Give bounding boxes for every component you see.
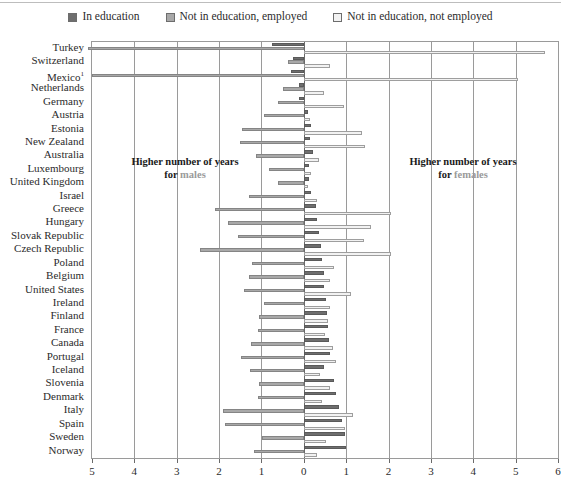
annotation-gender-word: males: [180, 169, 206, 180]
axis-tick-label: 2: [386, 465, 392, 477]
bar-1: [283, 87, 303, 90]
bar-row: [92, 284, 558, 297]
bar-1: [215, 208, 304, 211]
bar-row: [92, 418, 558, 431]
bar-2: [304, 172, 312, 175]
bar-0: [304, 244, 321, 247]
bar-0: [304, 352, 330, 355]
bar-1: [200, 248, 304, 251]
axis-tick: [431, 459, 432, 463]
annotation-line1: Higher number of years: [110, 156, 260, 169]
axis-tick: [304, 459, 305, 463]
bar-2: [304, 105, 344, 108]
category-label: Slovenia: [46, 376, 85, 389]
bar-0: [304, 204, 316, 207]
category-label: Estonia: [51, 122, 84, 135]
bar-2: [304, 91, 324, 94]
category-label: Canada: [51, 336, 84, 349]
bar-rows: [92, 42, 558, 458]
axis-tick-label: 3: [428, 465, 434, 477]
bar-0: [304, 285, 324, 288]
bar-0: [304, 231, 319, 234]
category-label: United Kingdom: [10, 175, 84, 188]
bar-row: [92, 123, 558, 136]
bar-1: [288, 60, 304, 63]
legend-label: In education: [82, 11, 139, 23]
chart-legend: In educationNot in education, employedNo…: [0, 8, 561, 26]
bar-0: [304, 405, 339, 408]
bar-1: [259, 382, 303, 385]
category-label: Austria: [52, 108, 84, 121]
bar-1: [242, 128, 303, 131]
category-axis-labels: TurkeySwitzerlandMexico1NetherlandsGerma…: [0, 41, 88, 459]
bar-2: [304, 386, 330, 389]
bar-2: [304, 252, 391, 255]
axis-tick-label: 0: [301, 465, 307, 477]
bar-1: [252, 262, 304, 265]
bar-row: [92, 42, 558, 55]
bar-0: [304, 124, 312, 127]
category-label: France: [54, 323, 84, 336]
category-label: Finland: [50, 309, 84, 322]
bar-0: [304, 298, 326, 301]
bar-row: [92, 109, 558, 122]
axis-tick-label: 5: [89, 465, 95, 477]
bar-2: [304, 199, 318, 202]
bar-2: [304, 158, 319, 161]
axis-tick-label: 5: [513, 465, 519, 477]
bar-2: [304, 279, 330, 282]
bar-1: [262, 436, 304, 439]
bar-1: [251, 342, 304, 345]
bar-0: [272, 43, 304, 46]
bar-1: [240, 141, 304, 144]
annotation-line1: Higher number of years: [388, 156, 538, 169]
bar-1: [250, 369, 304, 372]
category-label: United States: [25, 283, 84, 296]
bar-0: [304, 218, 318, 221]
bar-2: [304, 64, 330, 67]
axis-tick-label: 4: [471, 465, 477, 477]
category-label: Sweden: [49, 430, 84, 443]
bar-row: [92, 404, 558, 417]
legend-item-1: Not in education, employed: [166, 11, 308, 23]
bar-0: [304, 164, 309, 167]
bar-row: [92, 257, 558, 270]
bar-row: [92, 337, 558, 350]
legend-swatch-light: [333, 13, 342, 22]
category-label: Czech Republic: [14, 242, 84, 255]
axis-tick: [92, 459, 93, 463]
bar-0: [304, 325, 329, 328]
annotation-gender-word: females: [454, 169, 488, 180]
bar-row: [92, 82, 558, 95]
category-label: Spain: [59, 417, 84, 430]
bar-2: [304, 360, 336, 363]
axis-tick: [389, 459, 390, 463]
bar-1: [254, 450, 304, 453]
axis-tick: [177, 459, 178, 463]
bar-0: [304, 150, 313, 153]
bar-1: [238, 235, 304, 238]
bar-2: [304, 333, 325, 336]
legend-item-0: In education: [68, 11, 139, 23]
bar-1: [223, 409, 303, 412]
bar-row: [92, 230, 558, 243]
bar-0: [299, 83, 304, 86]
axis-tick-label: 1: [259, 465, 265, 477]
axis-tick: [346, 459, 347, 463]
bar-2: [304, 212, 391, 215]
bar-2: [304, 131, 362, 134]
bar-row: [92, 190, 558, 203]
bar-0: [293, 57, 304, 60]
bar-0: [304, 419, 342, 422]
axis-tick-label: 2: [216, 465, 222, 477]
category-label: Israel: [60, 189, 84, 202]
bar-row: [92, 364, 558, 377]
bar-1: [92, 74, 304, 77]
bar-0: [304, 379, 335, 382]
axis-tick-label: 6: [555, 465, 561, 477]
category-label: Portugal: [47, 350, 84, 363]
bar-2: [304, 266, 335, 269]
value-axis: Years 543210123456: [91, 459, 559, 481]
bar-row: [92, 136, 558, 149]
bar-0: [304, 177, 309, 180]
